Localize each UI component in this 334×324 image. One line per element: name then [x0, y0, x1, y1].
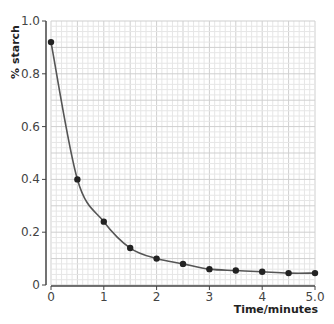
y-tick-label: 1.0: [21, 14, 40, 28]
data-point: [127, 245, 133, 251]
data-point: [74, 176, 80, 182]
x-tick-label: 0: [47, 290, 55, 304]
data-point: [180, 261, 186, 267]
x-tick-label: 2: [153, 290, 161, 304]
x-tick-label: 4: [258, 290, 266, 304]
y-tick-label: 0.4: [21, 172, 40, 186]
x-tick-label: 3: [206, 290, 214, 304]
data-point: [312, 270, 318, 276]
data-point: [233, 267, 239, 273]
y-axis-label: % starch: [9, 25, 22, 79]
data-point: [285, 270, 291, 276]
data-point: [206, 266, 212, 272]
grid: [51, 21, 315, 285]
starch-chart: 00.20.40.60.81.0012345.0 Time/minutes % …: [0, 0, 334, 324]
y-tick-label: 0: [32, 278, 40, 292]
x-tick-label: 1: [100, 290, 108, 304]
y-tick-label: 0.8: [21, 67, 40, 81]
y-tick-label: 0.6: [21, 120, 40, 134]
data-point: [101, 218, 107, 224]
data-point: [48, 39, 54, 45]
data-point: [153, 255, 159, 261]
data-point: [259, 269, 265, 275]
y-tick-label: 0.2: [21, 225, 40, 239]
x-tick-label: 5.0: [305, 290, 324, 304]
x-axis-label: Time/minutes: [234, 303, 319, 316]
